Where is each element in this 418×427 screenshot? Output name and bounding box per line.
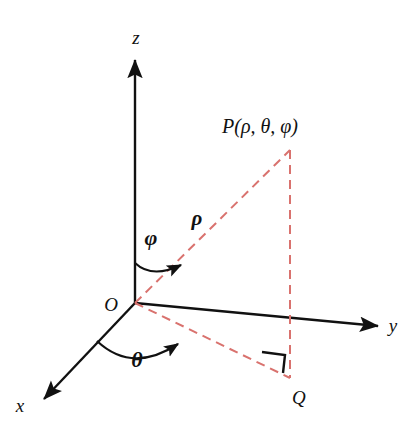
- axes-group: [44, 60, 378, 399]
- origin-label: O: [104, 294, 118, 315]
- spherical-triangle-group: [135, 150, 290, 378]
- point-p-label: P(ρ, θ, φ): [221, 115, 298, 138]
- point-q-label: Q: [292, 387, 306, 408]
- x-axis-line: [44, 303, 135, 399]
- y-axis-label: y: [387, 315, 398, 336]
- y-axis-line: [135, 303, 378, 326]
- z-axis-label: z: [131, 27, 140, 48]
- rho-segment-line: [135, 150, 290, 303]
- rho-length-label: ρ: [191, 206, 203, 230]
- oq-segment-line: [135, 303, 290, 378]
- spherical-coordinates-diagram: z y x O P(ρ, θ, φ) Q φ θ ρ: [0, 0, 418, 427]
- phi-angle-arc: [135, 263, 181, 272]
- x-axis-label: x: [15, 395, 25, 416]
- theta-angle-label: θ: [131, 347, 143, 372]
- diagram-canvas: z y x O P(ρ, θ, φ) Q φ θ ρ: [0, 0, 418, 427]
- phi-angle-label: φ: [145, 225, 158, 250]
